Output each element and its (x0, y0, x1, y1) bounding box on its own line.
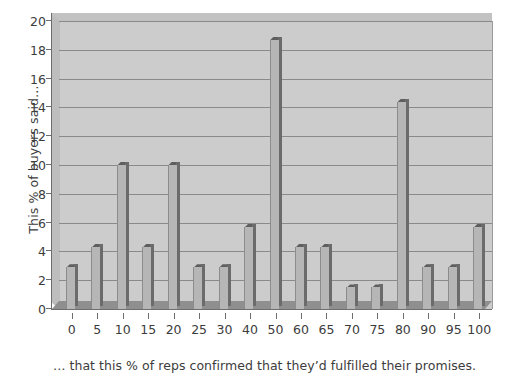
bar-front-face (117, 165, 126, 309)
plot-depth-left (51, 13, 60, 310)
y-tick-label: 14 (0, 100, 46, 115)
x-tick-mark (148, 313, 149, 319)
y-tick-mark (46, 164, 51, 165)
bar (168, 165, 179, 309)
x-tick-mark (174, 313, 175, 319)
y-tick-mark (46, 193, 51, 194)
bar-front-face (422, 267, 431, 309)
bar-front-face (346, 287, 355, 309)
x-tick-mark (352, 313, 353, 319)
y-tick-label: 8 (0, 186, 46, 201)
bar-front-face (397, 102, 406, 309)
y-tick-label: 10 (0, 158, 46, 173)
bar-front-face (295, 247, 304, 309)
gridline (59, 21, 492, 22)
x-tick-mark (97, 313, 98, 319)
y-tick-label: 0 (0, 302, 46, 317)
bar (91, 247, 102, 309)
x-tick-mark (276, 313, 277, 319)
y-axis-line (51, 13, 52, 310)
x-tick-mark (454, 313, 455, 319)
bar-front-face (168, 165, 177, 309)
x-tick-mark (377, 313, 378, 319)
bar (66, 267, 77, 309)
y-tick-label: 12 (0, 129, 46, 144)
bar-front-face (91, 247, 100, 309)
y-tick-label: 2 (0, 273, 46, 288)
bar (473, 227, 484, 309)
x-tick-mark (301, 313, 302, 319)
y-tick-mark (46, 135, 51, 136)
bar (270, 40, 281, 309)
y-tick-mark (46, 106, 51, 107)
bar-chart-figure: This % of buyers said… 02468101214161820… (0, 0, 529, 387)
x-tick-label: 100 (459, 322, 499, 337)
x-tick-mark (72, 313, 73, 319)
bar-front-face (193, 267, 202, 309)
x-axis-line (51, 309, 492, 310)
bar (397, 102, 408, 309)
x-tick-mark (199, 313, 200, 319)
bar (448, 267, 459, 309)
y-tick-mark (46, 78, 51, 79)
bar-front-face (142, 247, 151, 309)
x-tick-mark (428, 313, 429, 319)
plot-area: 02468101214161820 (59, 21, 492, 309)
bar (295, 247, 306, 309)
y-tick-mark (46, 222, 51, 223)
bar (142, 247, 153, 309)
x-tick-mark (250, 313, 251, 319)
bar (371, 287, 382, 309)
x-tick-mark (326, 313, 327, 319)
y-tick-label: 6 (0, 215, 46, 230)
y-tick-label: 16 (0, 71, 46, 86)
x-axis-title: … that this % of reps confirmed that the… (0, 358, 529, 373)
y-tick-mark (46, 49, 51, 50)
bar (193, 267, 204, 309)
y-tick-label: 4 (0, 244, 46, 259)
x-tick-mark (403, 313, 404, 319)
bar-front-face (371, 287, 380, 309)
bar (422, 267, 433, 309)
bar-front-face (270, 40, 279, 309)
bar (117, 165, 128, 309)
bar-front-face (448, 267, 457, 309)
bar (244, 227, 255, 309)
y-tick-mark (46, 308, 51, 309)
bar (320, 247, 331, 309)
bar-front-face (473, 227, 482, 309)
bar-front-face (219, 267, 228, 309)
bar-front-face (66, 267, 75, 309)
x-axis-ticks: 051015202530405060657075809095100 (59, 313, 492, 339)
y-tick-label: 18 (0, 42, 46, 57)
bar-front-face (320, 247, 329, 309)
bar (219, 267, 230, 309)
bar (346, 287, 357, 309)
x-tick-mark (123, 313, 124, 319)
x-tick-mark (225, 313, 226, 319)
y-tick-mark (46, 250, 51, 251)
y-tick-label: 20 (0, 14, 46, 29)
y-tick-mark (46, 279, 51, 280)
y-tick-mark (46, 20, 51, 21)
bar-front-face (244, 227, 253, 309)
x-tick-mark (479, 313, 480, 319)
